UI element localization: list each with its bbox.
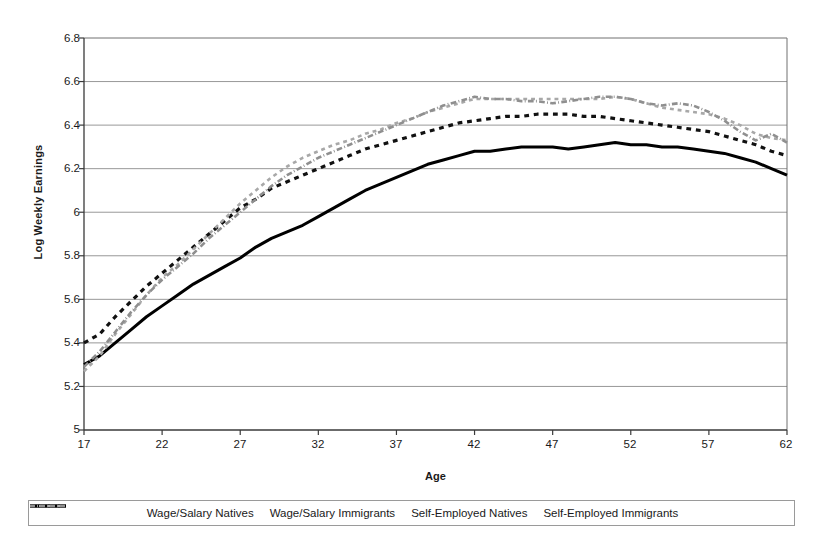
plot-area xyxy=(0,0,827,546)
series-line xyxy=(84,97,787,367)
legend-item-self-employed-immigrants: Self-Employed Immigrants xyxy=(539,507,680,519)
series-line xyxy=(84,97,787,371)
legend-label: Wage/Salary Immigrants xyxy=(270,507,395,519)
legend-label: Wage/Salary Natives xyxy=(147,507,254,519)
legend-label: Self-Employed Natives xyxy=(411,507,527,519)
legend-label: Self-Employed Immigrants xyxy=(543,507,678,519)
plot-frame xyxy=(84,38,787,430)
dash-dot-line-icon xyxy=(29,501,67,511)
legend-item-self-employed-natives: Self-Employed Natives xyxy=(407,507,529,519)
data-series-layer xyxy=(84,97,787,371)
legend-item-wage-salary-immigrants: Wage/Salary Immigrants xyxy=(266,507,397,519)
chart-legend: Wage/Salary Natives Wage/Salary Immigran… xyxy=(28,500,795,526)
chart-container: Log Weekly Earnings 6.8 6.6 6.4 6.2 6 5.… xyxy=(0,0,827,546)
axis-ticks xyxy=(79,38,787,435)
legend-item-wage-salary-natives: Wage/Salary Natives xyxy=(143,507,256,519)
